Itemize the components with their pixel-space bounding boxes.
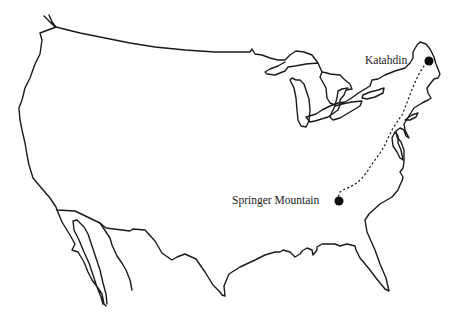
katahdin-label: Katahdin xyxy=(365,54,407,66)
lake-ontario xyxy=(362,88,384,99)
us-map xyxy=(0,0,460,313)
chesapeake-bay xyxy=(392,132,403,160)
springer-mountain-label: Springer Mountain xyxy=(232,194,319,206)
lake-huron xyxy=(320,72,348,105)
long-island xyxy=(405,113,418,120)
springer-mountain-marker xyxy=(335,197,344,206)
baja-california xyxy=(57,210,132,306)
lake-michigan xyxy=(290,78,310,127)
appalachian-trail-route xyxy=(338,61,429,201)
northern-border xyxy=(56,27,352,104)
katahdin-marker xyxy=(425,57,434,66)
